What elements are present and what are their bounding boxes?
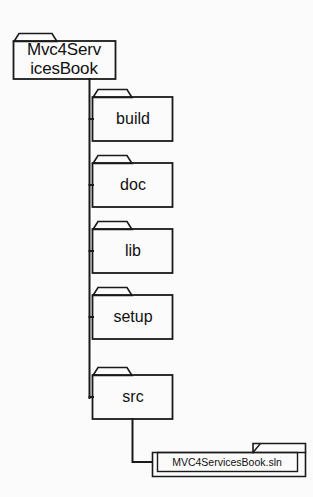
node-folder-doc[interactable]: doc bbox=[93, 156, 173, 208]
node-folder-src[interactable]: src bbox=[93, 368, 173, 420]
node-folder-lib[interactable]: lib bbox=[93, 222, 173, 274]
document-fold-diagonal bbox=[253, 444, 260, 453]
folder-structure-diagram: Mvc4Serv icesBook build doc lib setup bbox=[0, 0, 313, 497]
file-label: MVC4ServicesBook.sln bbox=[172, 456, 282, 468]
node-folder-setup[interactable]: setup bbox=[93, 288, 173, 340]
edge-src-to-sln bbox=[133, 419, 153, 462]
folder-label: doc bbox=[120, 176, 146, 193]
node-folder-build[interactable]: build bbox=[93, 90, 173, 142]
root-folder-label-line1: Mvc4Serv bbox=[27, 40, 102, 59]
folder-label: src bbox=[122, 388, 143, 405]
root-folder-label-line2: icesBook bbox=[30, 59, 98, 78]
node-root-folder[interactable]: Mvc4Serv icesBook bbox=[14, 34, 116, 80]
node-file-sln[interactable]: MVC4ServicesBook.sln bbox=[153, 444, 306, 477]
folder-label: setup bbox=[113, 308, 152, 325]
folder-label: build bbox=[116, 110, 150, 127]
folder-label: lib bbox=[125, 242, 141, 259]
